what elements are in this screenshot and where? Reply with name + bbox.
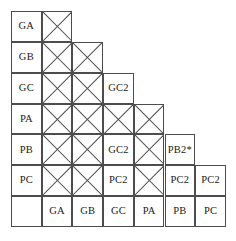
column-label-gc-text: GC <box>111 206 126 217</box>
row-label-pc: PC <box>11 165 42 196</box>
x-mark-icon <box>135 105 164 134</box>
crossed-cell-r0-c1 <box>42 11 73 42</box>
x-mark-icon <box>135 135 164 164</box>
column-label-ga: GA <box>42 196 73 227</box>
column-label-pa-text: PA <box>143 206 156 217</box>
crossed-cell-r2-c1 <box>42 73 73 104</box>
x-mark-icon <box>43 43 72 72</box>
row-label-pb-text: PB <box>20 145 33 156</box>
x-mark-icon <box>135 166 164 195</box>
column-label-gb-text: GB <box>80 206 95 217</box>
x-mark-icon <box>73 105 102 134</box>
value-cell-r2-c3-text: GC2 <box>108 83 128 94</box>
row-label-pc-text: PC <box>20 175 33 186</box>
value-cell-r5-c6: PC2 <box>195 165 226 196</box>
column-label-gb: GB <box>72 196 103 227</box>
value-cell-r5-c3: PC2 <box>103 165 134 196</box>
row-label-pa: PA <box>11 104 42 135</box>
crossed-cell-r1-c1 <box>42 42 73 73</box>
value-cell-r4-c5-text: PB2* <box>168 145 192 156</box>
value-cell-r2-c3: GC2 <box>103 73 134 104</box>
x-mark-icon <box>43 105 72 134</box>
x-mark-icon <box>43 166 72 195</box>
x-mark-icon <box>73 166 102 195</box>
value-cell-r4-c5: PB2* <box>165 134 196 165</box>
crossed-cell-r4-c2 <box>72 134 103 165</box>
value-cell-r4-c3-text: GC2 <box>108 145 128 156</box>
value-cell-r5-c3-text: PC2 <box>109 175 128 186</box>
corner-cell <box>11 196 42 227</box>
row-label-ga: GA <box>11 11 42 42</box>
crossed-cell-r4-c4 <box>134 134 165 165</box>
value-cell-r5-c5: PC2 <box>165 165 196 196</box>
x-mark-icon <box>43 12 72 41</box>
crossed-cell-r3-c2 <box>72 104 103 135</box>
crossed-cell-r5-c4 <box>134 165 165 196</box>
crossed-cell-r3-c3 <box>103 104 134 135</box>
row-label-pb: PB <box>11 134 42 165</box>
crossed-cell-r4-c1 <box>42 134 73 165</box>
x-mark-icon <box>73 43 102 72</box>
value-cell-r5-c6-text: PC2 <box>201 175 220 186</box>
value-cell-r4-c3: GC2 <box>103 134 134 165</box>
crossed-cell-r3-c4 <box>134 104 165 135</box>
crossed-cell-r3-c1 <box>42 104 73 135</box>
row-label-gb-text: GB <box>19 52 34 63</box>
column-label-pb-text: PB <box>173 206 186 217</box>
row-label-ga-text: GA <box>19 21 35 32</box>
matrix-grid: GAGBGCGC2PAPBGC2PB2*PCPC2PC2PC2GAGBGCPAP… <box>11 11 226 227</box>
crossed-cell-r1-c2 <box>72 42 103 73</box>
column-label-gc: GC <box>103 196 134 227</box>
row-label-gb: GB <box>11 42 42 73</box>
column-label-ga-text: GA <box>49 206 65 217</box>
crossed-cell-r5-c1 <box>42 165 73 196</box>
column-label-pc-text: PC <box>204 206 217 217</box>
row-label-gc-text: GC <box>19 83 34 94</box>
column-label-pa: PA <box>134 196 165 227</box>
crossed-cell-r5-c2 <box>72 165 103 196</box>
row-label-gc: GC <box>11 73 42 104</box>
column-label-pb: PB <box>165 196 196 227</box>
column-label-pc: PC <box>195 196 226 227</box>
x-mark-icon <box>43 74 72 103</box>
x-mark-icon <box>43 135 72 164</box>
x-mark-icon <box>73 74 102 103</box>
stair-step-comparison-matrix: GAGBGCGC2PAPBGC2PB2*PCPC2PC2PC2GAGBGCPAP… <box>0 0 236 241</box>
x-mark-icon <box>73 135 102 164</box>
row-label-pa-text: PA <box>20 114 33 125</box>
x-mark-icon <box>104 105 133 134</box>
crossed-cell-r2-c2 <box>72 73 103 104</box>
value-cell-r5-c5-text: PC2 <box>170 175 189 186</box>
